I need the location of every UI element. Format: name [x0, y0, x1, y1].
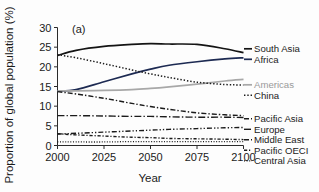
- series-line: [58, 79, 244, 90]
- series-line: [58, 58, 244, 91]
- legend-label: Africa: [254, 54, 279, 65]
- legend-label: Pacific OECI: [254, 145, 308, 156]
- x-tick-label: 2025: [92, 151, 116, 163]
- legend: South AsiaAfricaAmericasChinaPacific Asi…: [244, 43, 308, 166]
- series-line: [58, 127, 244, 134]
- y-tick-label: 5: [45, 120, 51, 132]
- legend-label: China: [254, 90, 280, 101]
- y-tick-label: 20: [39, 61, 51, 73]
- y-tick-label: 30: [39, 22, 51, 34]
- y-tick-label: 10: [39, 100, 51, 112]
- series-line: [58, 92, 244, 116]
- panel-label: (a): [72, 23, 85, 35]
- x-tick-label: 2075: [185, 151, 209, 163]
- figure-panel: Proportion of global population (%) (a) …: [0, 0, 319, 192]
- legend-label: Central Asia: [254, 155, 306, 166]
- x-tick-label: 2100: [231, 151, 255, 163]
- legend-label: Pacific Asia: [254, 113, 304, 124]
- y-tick-label: 25: [39, 41, 51, 53]
- x-axis-title: Year: [138, 172, 161, 184]
- y-tick-label: 15: [39, 81, 51, 93]
- y-axis-label: Proportion of global population (%): [3, 6, 15, 183]
- y-axis-ticks: 051015202530: [39, 22, 57, 152]
- series-line: [58, 116, 244, 118]
- x-tick-label: 2000: [45, 151, 69, 163]
- legend-label: Americas: [254, 79, 294, 90]
- series-line: [58, 134, 244, 140]
- x-tick-label: 2050: [138, 151, 162, 163]
- legend-label: South Asia: [254, 43, 301, 54]
- x-axis-ticks: 20002025205020752100: [45, 146, 255, 163]
- legend-label: Middle East: [254, 134, 304, 145]
- series-lines: [58, 44, 244, 142]
- line-chart: Proportion of global population (%) (a) …: [0, 0, 319, 192]
- legend-label: Europe: [254, 124, 285, 135]
- series-line: [58, 44, 244, 56]
